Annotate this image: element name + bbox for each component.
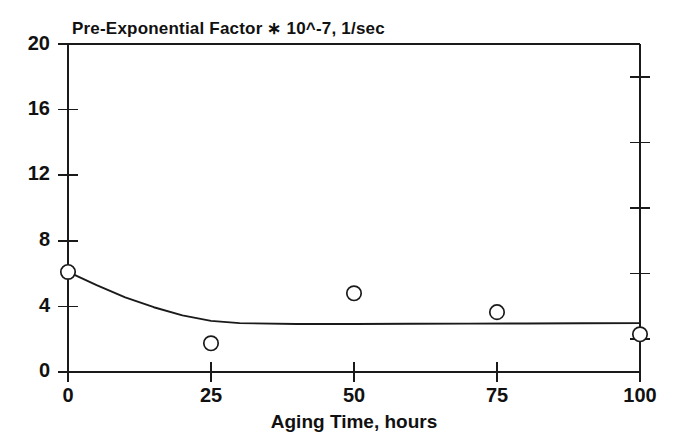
data-point-0 bbox=[61, 265, 75, 279]
data-points bbox=[61, 265, 647, 351]
data-point-75 bbox=[490, 305, 504, 319]
chart-figure: 0 4 8 12 16 20 0 25 50 75 100 Pre-Ex bbox=[0, 0, 691, 442]
y-tick-label-16: 16 bbox=[28, 97, 50, 119]
y-tick-label-0: 0 bbox=[39, 359, 50, 381]
y-tick-label-8: 8 bbox=[39, 228, 50, 250]
x-axis-title: Aging Time, hours bbox=[271, 411, 437, 432]
y-tick-labels: 0 4 8 12 16 20 bbox=[28, 32, 51, 381]
data-point-25 bbox=[204, 336, 218, 350]
x-tick-label-0: 0 bbox=[62, 384, 73, 406]
y-tick-label-4: 4 bbox=[39, 294, 51, 316]
x-tick-labels: 0 25 50 75 100 bbox=[62, 384, 656, 406]
x-tick-label-25: 25 bbox=[200, 384, 222, 406]
x-tick-label-50: 50 bbox=[343, 384, 365, 406]
data-point-50 bbox=[347, 286, 361, 300]
y-tick-label-20: 20 bbox=[28, 32, 50, 54]
x-tick-label-75: 75 bbox=[486, 384, 508, 406]
chart-title: Pre-Exponential Factor ∗ 10^-7, 1/sec bbox=[72, 19, 385, 38]
y-tick-label-12: 12 bbox=[28, 162, 50, 184]
x-tick-label-100: 100 bbox=[623, 384, 656, 406]
data-point-100 bbox=[633, 327, 647, 341]
chart-canvas: 0 4 8 12 16 20 0 25 50 75 100 Pre-Ex bbox=[0, 0, 691, 442]
